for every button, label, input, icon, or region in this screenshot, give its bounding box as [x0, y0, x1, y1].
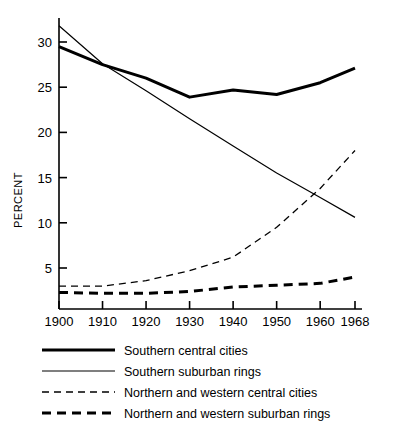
series-line-3: [59, 150, 355, 286]
percent-by-region-line-chart: 30252015105 1900191019201930194019501960…: [0, 0, 393, 421]
x-axis-ticks: [59, 301, 355, 309]
x-axis-tick-labels: 19001910192019301940195019601968: [45, 314, 370, 329]
legend-label-2: Southern suburban rings: [124, 365, 261, 379]
y-axis-ticks: [59, 42, 67, 268]
legend-label-4: Northern and western suburban rings: [124, 407, 330, 421]
y-axis-title: PERCENT: [12, 172, 24, 228]
chart-container: 30252015105 1900191019201930194019501960…: [0, 0, 393, 421]
y-tick-label: 25: [38, 80, 52, 95]
series-line-4: [59, 277, 355, 293]
y-tick-label: 15: [38, 171, 52, 186]
x-tick-label: 1940: [219, 314, 248, 329]
y-tick-label: 20: [38, 125, 52, 140]
y-axis-tick-labels: 30252015105: [38, 35, 52, 276]
x-tick-label: 1960: [306, 314, 335, 329]
series-line-1: [59, 47, 355, 98]
x-tick-label: 1950: [262, 314, 291, 329]
x-tick-label: 1900: [45, 314, 74, 329]
y-tick-label: 30: [38, 35, 52, 50]
x-tick-label: 1910: [88, 314, 117, 329]
legend-label-1: Southern central cities: [124, 344, 248, 358]
x-tick-label: 1920: [132, 314, 161, 329]
data-series-group: [59, 26, 355, 294]
chart-legend: Southern central citiesSouthern suburban…: [42, 344, 330, 421]
y-tick-label: 5: [45, 261, 52, 276]
y-tick-label: 10: [38, 216, 52, 231]
legend-label-3: Northern and western central cities: [124, 386, 317, 400]
x-tick-label: 1968: [341, 314, 370, 329]
x-tick-label: 1930: [175, 314, 204, 329]
series-line-2: [59, 26, 355, 218]
